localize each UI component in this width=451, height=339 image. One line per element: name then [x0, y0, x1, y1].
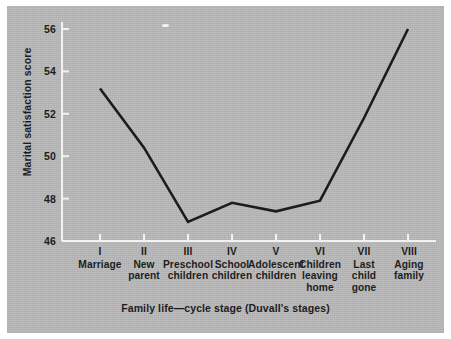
y-tick-label-54: 54: [30, 65, 56, 77]
x-category-VIII: VIII Aging family: [382, 246, 436, 282]
y-tick-label-48: 48: [30, 193, 56, 205]
x-category-word-VII-2: gone: [340, 282, 388, 294]
figure-container: 56 54 52 50 48 46 Marital satisfaction s…: [0, 0, 451, 339]
y-tick-label-46: 46: [30, 235, 56, 247]
x-category-roman-VIII: VIII: [382, 246, 436, 258]
x-category-VII: VII Last child gone: [340, 246, 388, 293]
x-category-word-VII-0: Last: [340, 259, 388, 271]
x-category-roman-VII: VII: [340, 246, 388, 258]
x-category-word-VIII-1: family: [382, 270, 436, 282]
x-category-word-VIII-0: Aging: [382, 259, 436, 271]
marital-satisfaction-series: [100, 29, 408, 222]
y-tick-label-50: 50: [30, 150, 56, 162]
x-axis-title: Family life—cycle stage (Duvall's stages…: [0, 302, 451, 314]
y-tick-label-52: 52: [30, 108, 56, 120]
x-category-word-VII-1: child: [340, 270, 388, 282]
y-tick-label-56: 56: [30, 23, 56, 35]
y-axis-title: Marital satisfaction score: [21, 32, 33, 192]
